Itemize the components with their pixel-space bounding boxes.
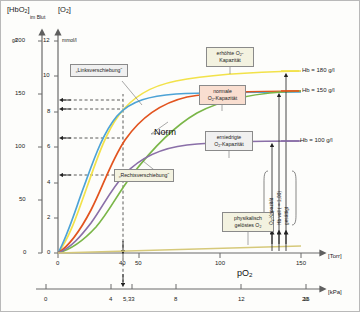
annotation-o2-capacity: O2-Kapazität [270, 173, 275, 225]
y-tick-gl-150: 150 [15, 90, 25, 96]
x-tick-kpa-20: 20 [302, 296, 309, 302]
label-hb-180: Hb = 180 g/l [302, 67, 335, 73]
x-axis-torr-unit: [Torr] [328, 253, 342, 259]
x-tick-kpa-4: 4 [109, 296, 112, 302]
y-tick-mmol-4: 4 [47, 179, 50, 185]
x-tick-torr-150: 150 [296, 260, 306, 266]
y-tick-gl-50: 50 [19, 196, 26, 202]
hb-level-ticks [281, 71, 299, 141]
y-tick-mmol-2: 2 [47, 214, 50, 220]
figure-container: [HbO2] im Blut [O2] g/l mmol/l [0, 0, 360, 312]
annotation-hb-saturated-line1: Hb voll ( = 1,00) [278, 173, 283, 225]
y-tick-mmol-10: 10 [43, 72, 50, 78]
callout-increased-capacity[interactable]: erhöhte O2- Kapazität [206, 47, 254, 67]
callout-dissolved-o2[interactable]: physikalisch gelöstes O2 [222, 212, 274, 232]
x-tick-torr-0: 0 [56, 260, 59, 266]
y-tick-gl-0: 0 [23, 249, 26, 255]
y-tick-mmol-12: 12 [43, 37, 50, 43]
label-hb-100: Hb = 100 g/l [300, 137, 333, 143]
x-tick-kpa-12: 12 [238, 296, 245, 302]
y-axis-gl [38, 32, 42, 253]
plot-area [1, 1, 360, 312]
x-axis-torr [58, 253, 323, 258]
x-tick-kpa-8: 8 [174, 296, 177, 302]
annotation-hb-saturated-line2: gesättigt [285, 181, 290, 225]
y-tick-mmol-8: 8 [47, 108, 50, 114]
x-tick-torr-50: 50 [135, 260, 142, 266]
reference-arrows [61, 100, 123, 285]
x-axis-label: pO2 [237, 269, 252, 279]
y-axis-mmol [54, 32, 58, 253]
callout-reduced-capacity[interactable]: erniedrigte O2-Kapazität [205, 131, 253, 151]
y-tick-mmol-0: 0 [47, 249, 50, 255]
callout-normal-capacity[interactable]: normale O2-Kapazität [199, 85, 246, 105]
callout-left-shift[interactable]: „Linksverschiebung“ [70, 64, 128, 77]
x-tick-torr-100: 100 [215, 260, 225, 266]
y-tick-gl-100: 100 [15, 143, 25, 149]
curve-dissolved-o2 [58, 246, 301, 253]
x-axis-kpa [36, 284, 323, 289]
x-tick-kpa-0: 0 [44, 296, 47, 302]
x-tick-kpa-533: 5,33 [123, 296, 135, 302]
callout-norm: Norm [154, 128, 176, 137]
y-tick-gl-200: 200 [15, 37, 25, 43]
annotation-up-arrows [272, 232, 286, 244]
x-axis-kpa-unit: [kPa] [328, 289, 342, 295]
label-hb-150: Hb = 150 g/l [302, 87, 335, 93]
x-tick-torr-40: 40 [119, 260, 126, 266]
callout-right-shift[interactable]: „Rechtsverschiebung“ [114, 169, 174, 182]
y-tick-mmol-6: 6 [47, 143, 50, 149]
